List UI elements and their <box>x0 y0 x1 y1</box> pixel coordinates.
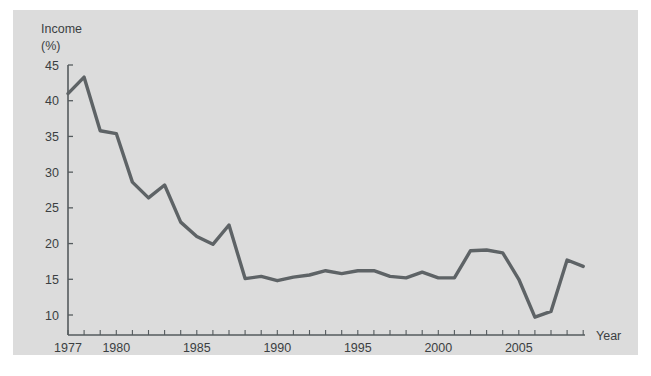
x-axis-tick-labels: 1977198019851990199520002005 <box>54 341 533 355</box>
y-tick-label-20: 20 <box>45 237 59 251</box>
y-axis-title-line1: Income <box>41 22 82 36</box>
y-tick-label-15: 15 <box>45 273 59 287</box>
x-tick-label-1995: 1995 <box>344 341 372 355</box>
x-tick-label-1977: 1977 <box>54 341 82 355</box>
y-tick-label-35: 35 <box>45 130 59 144</box>
y-axis-tick-labels: 1015202530354045 <box>45 59 59 323</box>
x-axis-title: Year <box>596 329 621 343</box>
y-tick-label-45: 45 <box>45 59 59 73</box>
x-tick-label-1990: 1990 <box>263 341 291 355</box>
x-tick-label-1985: 1985 <box>183 341 211 355</box>
x-tick-label-2000: 2000 <box>424 341 452 355</box>
chart-page: 1015202530354045 19771980198519901995200… <box>0 0 651 376</box>
x-tick-label-2005: 2005 <box>505 341 533 355</box>
y-tick-label-25: 25 <box>45 201 59 215</box>
y-tick-label-30: 30 <box>45 166 59 180</box>
x-tick-label-1980: 1980 <box>102 341 130 355</box>
y-axis-title-line2: (%) <box>41 39 60 53</box>
line-chart: 1015202530354045 19771980198519901995200… <box>0 0 651 376</box>
income-series-line <box>68 77 583 317</box>
y-axis: 1015202530354045 <box>45 59 73 336</box>
x-axis: 1977198019851990199520002005 <box>54 330 585 355</box>
y-tick-label-10: 10 <box>45 309 59 323</box>
y-tick-label-40: 40 <box>45 94 59 108</box>
